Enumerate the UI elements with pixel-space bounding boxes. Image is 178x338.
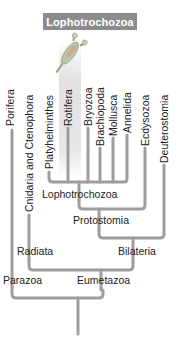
clade-label-eumetazoa: Eumetazoa (77, 274, 130, 286)
taxon-label-ecdysozoa: Ecdysozoa (139, 95, 151, 146)
clade-label-bilateria: Bilateria (118, 245, 156, 257)
clade-label-protostomia: Protostomia (73, 214, 129, 226)
taxon-label-porifera: Porifera (4, 89, 16, 126)
taxon-label-platyhelminthes: Platyhelminthes (43, 95, 55, 169)
taxon-label-deuterostomia: Deuterostomia (158, 95, 170, 163)
taxon-label-mollusca: Mollusca (107, 95, 119, 136)
clade-label-parazoa: Parazoa (3, 274, 42, 286)
taxon-label-rotifera: Rotifera (62, 89, 74, 126)
taxon-label-annelida: Annelida (121, 92, 133, 133)
taxon-label-bryozoa: Bryozoa (82, 87, 94, 126)
taxon-label-brachiopoda: Brachiopoda (94, 87, 106, 146)
clade-label-lophotrochozoa: Lophotrochozoa (42, 188, 117, 200)
taxon-label-cnidaria-ctenophora: Cnidaria and Ctenophora (23, 95, 35, 212)
clade-label-radiata: Radiata (17, 245, 53, 257)
